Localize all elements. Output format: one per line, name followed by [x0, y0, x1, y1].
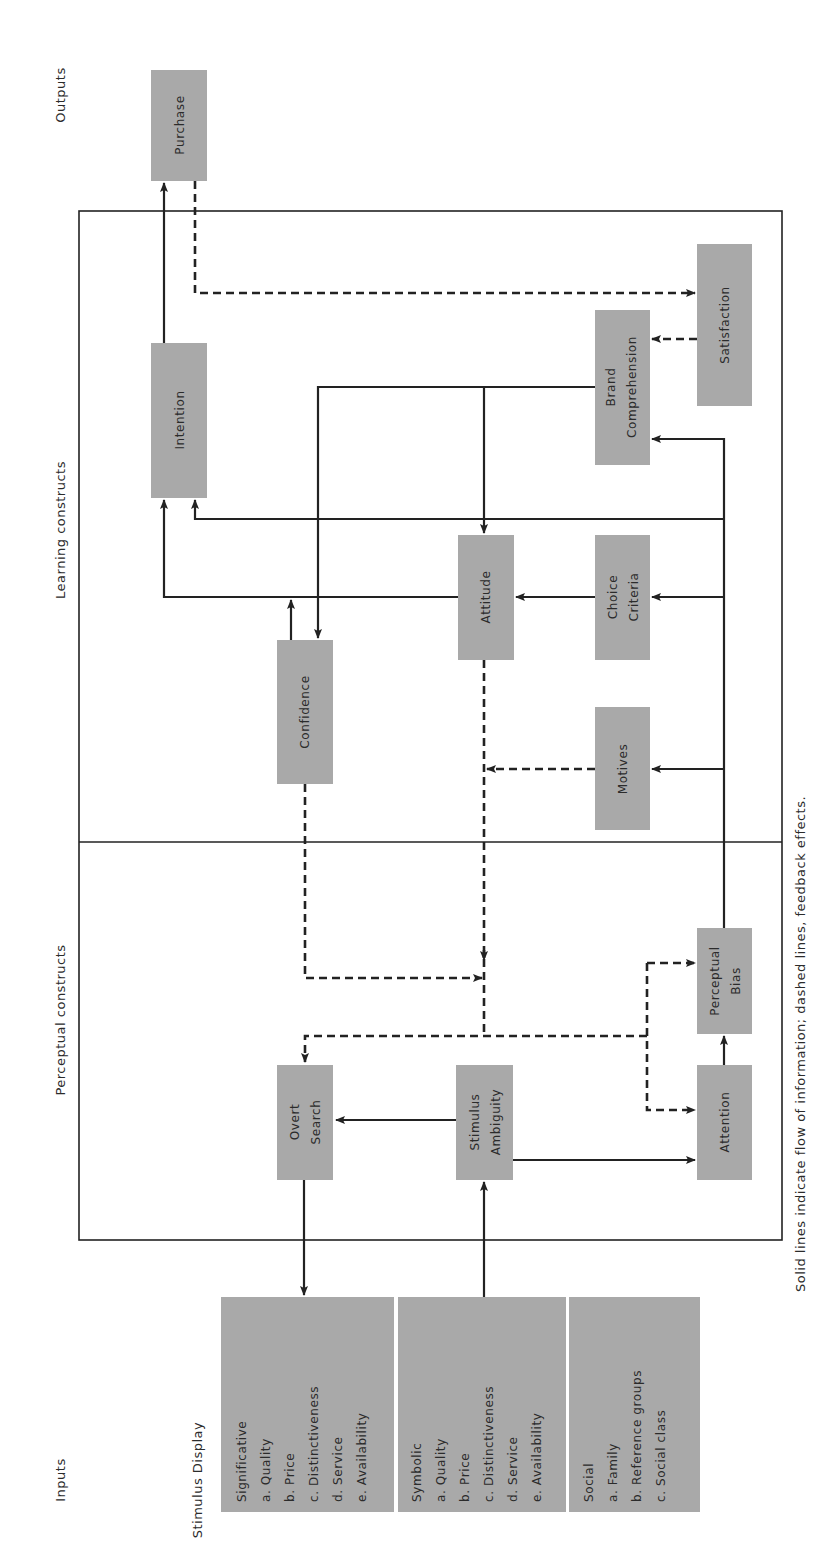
svg-text:Bias: Bias: [729, 967, 743, 995]
svg-text:Search: Search: [309, 1100, 323, 1145]
inputs-label: Inputs: [53, 1458, 68, 1501]
svg-text:Criteria: Criteria: [627, 572, 641, 621]
learning-constructs-label: Learning constructs: [53, 461, 68, 599]
node-purchase: Purchase: [151, 70, 207, 181]
node-overt-search: Overt Search: [277, 1065, 333, 1180]
howard-sheth-model-diagram: Outputs Learning constructs Perceptual c…: [0, 0, 813, 1553]
legend-caption: Solid lines indicate flow of information…: [793, 796, 808, 1292]
svg-text:Stimulus: Stimulus: [468, 1094, 482, 1151]
node-choice-criteria: Choice Criteria: [595, 535, 650, 660]
node-brand-comprehension: Brand Comprehension: [595, 310, 650, 465]
svg-text:Attitude: Attitude: [479, 571, 493, 624]
svg-text:Attention: Attention: [718, 1092, 732, 1153]
node-attention: Attention: [697, 1065, 752, 1180]
svg-text:Ambiguity: Ambiguity: [489, 1089, 503, 1156]
svg-text:Choice: Choice: [606, 575, 620, 619]
svg-text:c. Distinctiveness: c. Distinctiveness: [482, 1386, 496, 1502]
input-significative: Significative a. Quality b. Price c. Dis…: [221, 1297, 394, 1512]
svg-text:Overt: Overt: [288, 1104, 302, 1141]
svg-text:e. Availability: e. Availability: [530, 1413, 544, 1502]
node-motives: Motives: [595, 707, 650, 830]
svg-text:Social: Social: [582, 1463, 596, 1502]
svg-text:Confidence: Confidence: [298, 675, 312, 748]
node-confidence: Confidence: [277, 640, 333, 784]
svg-text:b. Reference groups: b. Reference groups: [630, 1370, 644, 1502]
svg-text:a. Quality: a. Quality: [259, 1438, 273, 1502]
node-stimulus-ambiguity: Stimulus Ambiguity: [456, 1065, 513, 1180]
input-symbolic: Symbolic a. Quality b. Price c. Distinct…: [398, 1297, 566, 1512]
svg-text:a. Family: a. Family: [606, 1443, 620, 1502]
svg-text:Purchase: Purchase: [173, 95, 187, 154]
svg-text:Symbolic: Symbolic: [410, 1443, 424, 1502]
svg-text:Brand: Brand: [604, 368, 618, 407]
svg-text:Intention: Intention: [173, 390, 187, 449]
svg-text:e. Availability: e. Availability: [355, 1413, 369, 1502]
node-satisfaction: Satisfaction: [697, 244, 752, 406]
node-attitude: Attitude: [458, 535, 514, 660]
stimulus-display-label: Stimulus Display: [190, 1422, 205, 1539]
svg-text:Satisfaction: Satisfaction: [718, 286, 732, 364]
outputs-label: Outputs: [53, 67, 68, 122]
svg-text:b. Price: b. Price: [283, 1453, 297, 1502]
node-intention: Intention: [151, 343, 207, 498]
svg-text:c. Distinctiveness: c. Distinctiveness: [307, 1386, 321, 1502]
svg-text:Perceptual: Perceptual: [708, 946, 722, 1015]
svg-text:d. Service: d. Service: [331, 1436, 345, 1502]
svg-text:b. Price: b. Price: [458, 1453, 472, 1502]
svg-text:Significative: Significative: [235, 1421, 249, 1502]
svg-text:Motives: Motives: [616, 744, 630, 795]
input-social: Social a. Family b. Reference groups c. …: [569, 1297, 700, 1512]
perceptual-constructs-label: Perceptual constructs: [53, 944, 68, 1095]
svg-text:a. Quality: a. Quality: [434, 1438, 448, 1502]
svg-text:d. Service: d. Service: [506, 1436, 520, 1502]
node-perceptual-bias: Perceptual Bias: [697, 928, 752, 1034]
svg-text:c. Social class: c. Social class: [654, 1410, 668, 1502]
svg-text:Comprehension: Comprehension: [625, 336, 639, 438]
